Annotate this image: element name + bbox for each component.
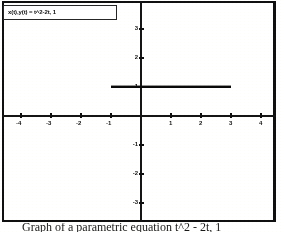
- plot-frame: [2, 1, 276, 222]
- x-tick-label: 4: [259, 120, 262, 126]
- x-axis: [2, 115, 276, 117]
- plotted-curve: [111, 86, 231, 88]
- y-tick-label: -2: [128, 170, 138, 176]
- x-tick-mark: [20, 113, 22, 118]
- y-tick-label: -1: [128, 141, 138, 147]
- y-tick-mark: [139, 28, 144, 30]
- x-tick-label: -2: [76, 120, 81, 126]
- x-tick-mark: [170, 113, 172, 118]
- x-tick-label: 1: [169, 120, 172, 126]
- x-tick-label: -3: [46, 120, 51, 126]
- x-tick-label: -4: [16, 120, 21, 126]
- x-tick-label: 2: [199, 120, 202, 126]
- scanned-figure-page: -4-3-2-11234 321-1-2-3 x(t),y(t) = t^2-2…: [0, 0, 284, 232]
- figure-caption: Graph of a parametric equation t^2 - 2t,…: [0, 223, 284, 232]
- x-tick-mark: [200, 113, 202, 118]
- equation-label-text: x(t),y(t) = t^2-2t, 1: [4, 9, 56, 16]
- x-tick-mark: [50, 113, 52, 118]
- y-tick-mark: [139, 144, 144, 146]
- x-tick-mark: [110, 113, 112, 118]
- equation-label-box: x(t),y(t) = t^2-2t, 1: [3, 5, 117, 20]
- x-tick-mark: [80, 113, 82, 118]
- y-tick-label: -3: [128, 199, 138, 205]
- figure-caption-text: Graph of a parametric equation t^2 - 2t,…: [22, 223, 221, 232]
- x-tick-mark: [230, 113, 232, 118]
- x-tick-label: 3: [229, 120, 232, 126]
- y-axis: [140, 1, 142, 222]
- y-tick-label: 2: [128, 54, 138, 60]
- x-tick-label: -1: [106, 120, 111, 126]
- y-tick-mark: [139, 173, 144, 175]
- x-tick-mark: [260, 113, 262, 118]
- y-tick-mark: [139, 57, 144, 59]
- y-tick-mark: [139, 202, 144, 204]
- y-tick-label: 3: [128, 25, 138, 31]
